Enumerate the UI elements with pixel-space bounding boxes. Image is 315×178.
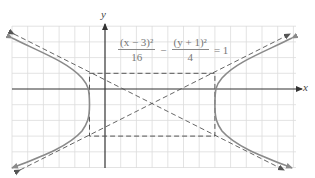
hyperbola-equation: (x − 3)² 16 − (y + 1)² 4 = 1 [116, 36, 231, 64]
y-axis-label: y [101, 8, 106, 20]
term1-denominator: 16 [131, 50, 142, 64]
minus-operator: − [157, 44, 169, 56]
hyperbola-graph [0, 0, 315, 178]
term2-denominator: 4 [187, 50, 193, 64]
term2-fraction: (y + 1)² 4 [170, 36, 211, 64]
term2-numerator: (y + 1)² [172, 36, 209, 50]
equals-one: = 1 [211, 44, 231, 56]
term1-fraction: (x − 3)² 16 [116, 36, 157, 64]
x-axis-label: x [303, 81, 308, 93]
term1-numerator: (x − 3)² [118, 36, 155, 50]
